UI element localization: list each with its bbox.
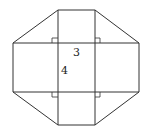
- right-angle-marker-bottom-right: [95, 92, 100, 97]
- right-angle-marker-top-left: [52, 38, 58, 43]
- octagon-outline: [13, 10, 139, 125]
- right-angle-marker-bottom-left: [52, 92, 58, 97]
- right-angle-marker-top-right: [95, 38, 100, 43]
- label-width: 3: [73, 46, 80, 59]
- label-height: 4: [61, 64, 68, 77]
- prism-net-diagram: 3 4: [0, 0, 147, 129]
